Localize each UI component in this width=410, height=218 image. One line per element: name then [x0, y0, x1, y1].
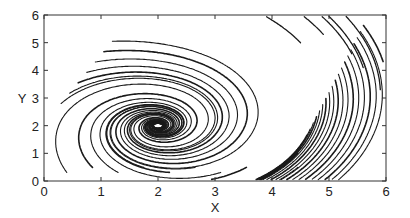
x-tick-label: 1: [97, 184, 104, 199]
y-tick-label: 0: [32, 174, 39, 189]
x-tick-label: 2: [154, 184, 161, 199]
x-tick-label: 3: [211, 184, 218, 199]
x-axis-label: X: [211, 200, 220, 215]
streamline: [322, 17, 352, 54]
x-tick-labels: 0123456: [40, 184, 389, 199]
x-tick-label: 0: [40, 184, 47, 199]
x-tick-label: 4: [268, 184, 275, 199]
y-tick-label: 4: [32, 63, 39, 78]
streamline: [329, 17, 363, 68]
x-tick-label: 5: [325, 184, 332, 199]
y-tick-label: 3: [32, 91, 39, 106]
y-axis-label: Y: [18, 91, 27, 106]
y-tick-label: 5: [32, 36, 39, 51]
streamline: [306, 62, 354, 179]
streamlines: [56, 17, 383, 180]
streamline: [260, 117, 317, 180]
streamline: [267, 17, 301, 43]
phase-plot: 0123456 0123456 X Y: [0, 0, 410, 218]
y-tick-label: 2: [32, 119, 39, 134]
y-tick-label: 6: [32, 8, 39, 23]
streamline: [299, 68, 348, 179]
x-tick-label: 6: [382, 184, 389, 199]
y-tick-labels: 0123456: [32, 8, 39, 189]
y-tick-label: 1: [32, 146, 39, 161]
streamline: [304, 17, 323, 35]
